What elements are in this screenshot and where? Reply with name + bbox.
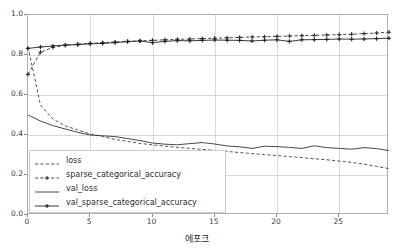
series-line-sparse_categorical_accuracy <box>28 32 389 74</box>
legend-item-loss: loss <box>34 154 221 168</box>
x-tick-label: 10 <box>140 218 164 226</box>
x-tick-mark <box>89 214 90 217</box>
x-tick-mark <box>214 214 215 217</box>
series-line-val_sparse_categorical_accuracy <box>28 38 389 48</box>
legend-label: val_loss <box>66 184 97 194</box>
legend-swatch-icon <box>34 169 60 181</box>
y-tick-mark <box>24 174 27 175</box>
y-tick-label: 0.8 <box>1 50 23 58</box>
x-tick-label: 5 <box>77 218 101 226</box>
y-tick-mark <box>24 54 27 55</box>
legend-item-sparse_categorical_accuracy: sparse_categorical_accuracy <box>34 168 221 182</box>
series-markers-sparse_categorical_accuracy <box>26 30 391 76</box>
chart-legend: losssparse_categorical_accuracyval_lossv… <box>29 150 226 213</box>
x-tick-label: 0 <box>15 218 39 226</box>
legend-item-val_loss: val_loss <box>34 182 221 196</box>
y-tick-label: 0.0 <box>1 210 23 218</box>
legend-label: loss <box>66 156 81 166</box>
y-tick-mark <box>24 134 27 135</box>
y-tick-label: 0.4 <box>1 130 23 138</box>
x-tick-mark <box>338 214 339 217</box>
x-tick-mark <box>276 214 277 217</box>
y-tick-mark <box>24 94 27 95</box>
legend-item-val_sparse_categorical_accuracy: val_sparse_categorical_accuracy <box>34 196 221 210</box>
x-tick-mark <box>152 214 153 217</box>
x-axis-label: 에포크 <box>0 232 393 245</box>
y-tick-label: 0.6 <box>1 90 23 98</box>
y-tick-mark <box>24 14 27 15</box>
legend-swatch-icon <box>34 155 60 167</box>
x-tick-label: 25 <box>326 218 350 226</box>
x-tick-label: 20 <box>264 218 288 226</box>
matplotlib-figure: 0.00.20.40.60.81.0 0510152025 에포크 losssp… <box>0 0 393 250</box>
legend-label: sparse_categorical_accuracy <box>66 170 181 180</box>
x-tick-label: 15 <box>202 218 226 226</box>
legend-swatch-icon <box>34 183 60 195</box>
y-tick-label: 1.0 <box>1 10 23 18</box>
legend-label: val_sparse_categorical_accuracy <box>66 198 197 208</box>
x-tick-mark <box>27 214 28 217</box>
y-tick-label: 0.2 <box>1 170 23 178</box>
series-line-val_loss <box>28 115 389 151</box>
legend-swatch-icon <box>34 197 60 209</box>
